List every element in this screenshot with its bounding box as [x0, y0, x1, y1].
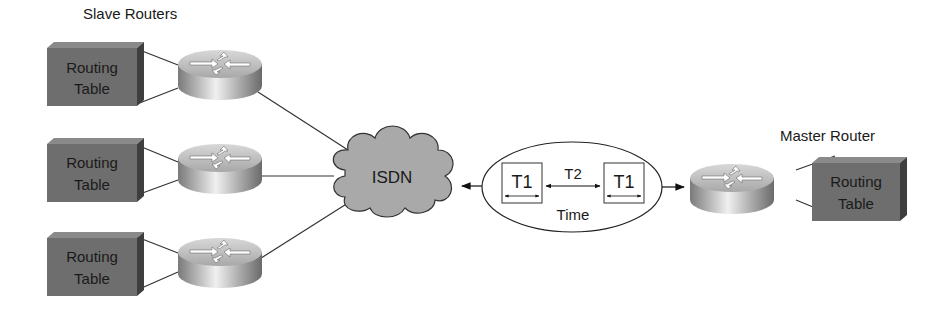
svg-text:Routing: Routing	[66, 248, 118, 265]
t1-left-label: T1	[511, 172, 532, 192]
timer-ellipse: T1 T1 T2 Time	[482, 142, 662, 232]
svg-text:Routing: Routing	[66, 59, 118, 76]
t2-label: T2	[564, 165, 582, 182]
master-routing-table: Routing Table	[812, 157, 907, 221]
slave-routers-label: Slave Routers	[83, 5, 177, 22]
svg-text:Routing: Routing	[66, 154, 118, 171]
slave-router-icon-2	[178, 144, 262, 194]
isdn-cloud-icon: ISDN	[333, 126, 453, 217]
slave-routing-table-3: Routing Table	[47, 232, 144, 296]
slave-routing-table-2: Routing Table	[47, 138, 144, 202]
slave-routing-table-1: Routing Table	[47, 42, 144, 106]
master-router-icon	[690, 164, 774, 214]
svg-text:Routing: Routing	[830, 173, 882, 190]
svg-text:Table: Table	[838, 195, 874, 212]
svg-text:ISDN: ISDN	[372, 168, 413, 187]
t1-right-label: T1	[613, 172, 634, 192]
time-label: Time	[557, 206, 590, 223]
master-router-label: Master Router	[780, 127, 875, 144]
svg-text:Table: Table	[74, 270, 110, 287]
isdn-snapshot-routing-diagram: Slave Routers Routing Table Routing Tabl…	[0, 0, 947, 315]
slave-router-icon-3	[178, 238, 262, 288]
isdn-links	[258, 92, 348, 260]
slave-router-icon-1	[178, 50, 262, 100]
svg-text:Table: Table	[74, 176, 110, 193]
svg-text:Table: Table	[74, 80, 110, 97]
